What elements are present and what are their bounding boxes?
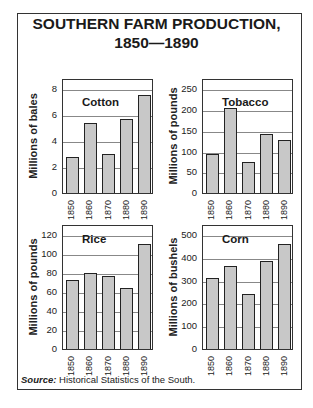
- bar-1850: [206, 278, 219, 349]
- x-tick-label: 1860: [224, 356, 234, 376]
- x-tick-label: 1850: [206, 356, 216, 376]
- bar-1880: [120, 288, 133, 349]
- x-tick-label: 1860: [84, 356, 94, 376]
- x-tick-label: 1870: [243, 356, 253, 376]
- bar-1870: [102, 276, 115, 349]
- x-tick-label: 1870: [243, 200, 253, 220]
- bar-1870: [242, 162, 255, 194]
- bar-1850: [66, 157, 79, 193]
- bar-1850: [66, 280, 79, 349]
- x-tick-label: 1890: [279, 200, 289, 220]
- bar-1880: [260, 134, 273, 193]
- y-axis-label: Millions of pounds: [167, 76, 179, 196]
- x-tick-label: 1890: [279, 356, 289, 376]
- x-tick-label: 1870: [103, 200, 113, 220]
- bar-1860: [224, 266, 237, 349]
- gridline: [203, 132, 292, 133]
- bar-1870: [242, 294, 255, 350]
- title-line-2: 1850—1890: [0, 33, 313, 52]
- bar-1890: [138, 95, 151, 193]
- bar-1890: [278, 140, 291, 193]
- bar-1880: [260, 261, 273, 350]
- x-tick-label: 1880: [121, 356, 131, 376]
- x-tick-label: 1890: [139, 200, 149, 220]
- bar-1850: [206, 154, 219, 193]
- chart-title: SOUTHERN FARM PRODUCTION, 1850—1890: [0, 14, 313, 52]
- crop-label: Tobacco: [222, 96, 268, 108]
- crop-label: Rice: [82, 233, 106, 245]
- bar-1890: [138, 244, 151, 349]
- crop-label: Cotton: [82, 96, 119, 108]
- x-tick-label: 1870: [103, 356, 113, 376]
- x-tick-label: 1890: [139, 356, 149, 376]
- x-tick-label: 1850: [66, 200, 76, 220]
- gridline: [203, 90, 292, 91]
- crop-label: Corn: [222, 233, 249, 245]
- bar-1860: [224, 108, 237, 193]
- x-tick-label: 1880: [261, 356, 271, 376]
- x-tick-label: 1850: [66, 356, 76, 376]
- bar-1880: [120, 119, 133, 193]
- gridline: [63, 90, 152, 91]
- x-tick-label: 1880: [261, 200, 271, 220]
- bar-1860: [84, 123, 97, 193]
- x-tick-label: 1860: [84, 200, 94, 220]
- bar-1870: [102, 154, 115, 193]
- y-axis-label: Millions of bales: [27, 76, 39, 196]
- gridline: [203, 111, 292, 112]
- x-tick-label: 1860: [224, 200, 234, 220]
- bar-1890: [278, 244, 291, 349]
- title-line-1: SOUTHERN FARM PRODUCTION,: [0, 14, 313, 33]
- y-axis-label: Millions of pounds: [27, 227, 39, 347]
- gridline: [63, 236, 152, 237]
- source-label: Source:: [21, 374, 56, 385]
- x-tick-label: 1880: [121, 200, 131, 220]
- x-tick-label: 1850: [206, 200, 216, 220]
- bar-1860: [84, 273, 97, 349]
- y-axis-label: Millions of bushels: [167, 227, 179, 347]
- plot-area: [62, 225, 153, 350]
